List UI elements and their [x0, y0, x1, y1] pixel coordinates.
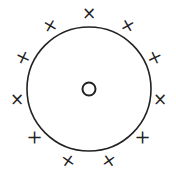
x-mark: × [119, 13, 138, 36]
x-mark: × [10, 89, 24, 109]
x-mark: × [23, 125, 47, 149]
x-mark: × [145, 45, 165, 69]
x-mark: × [13, 45, 33, 69]
x-mark: × [100, 149, 118, 171]
outer-marks: ××××××××××× [10, 3, 167, 171]
x-mark: × [82, 3, 96, 23]
x-mark: × [153, 89, 167, 109]
diagram-canvas: O ××××××××××× [0, 0, 176, 179]
x-mark: × [131, 125, 155, 149]
center-point-o [83, 83, 96, 96]
x-mark: × [59, 149, 77, 171]
x-mark: × [41, 13, 60, 36]
